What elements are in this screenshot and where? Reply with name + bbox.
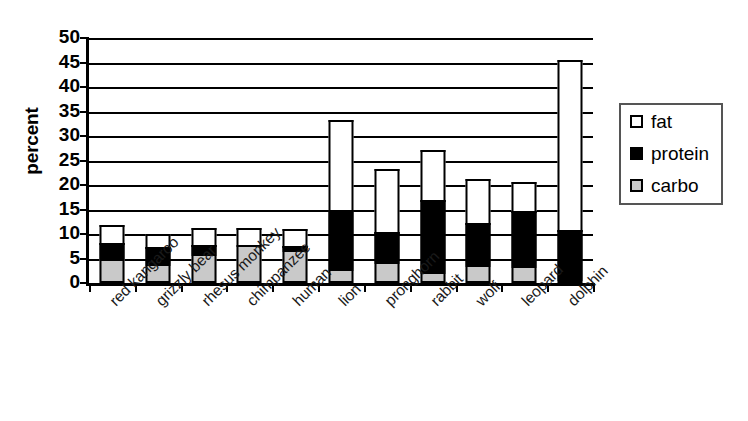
- bar-segment-protein[interactable]: [328, 210, 353, 272]
- x-axis-tick-mark: [89, 283, 91, 292]
- bar-group[interactable]: [364, 38, 410, 283]
- y-axis-tick-label: 15: [59, 198, 80, 220]
- bar-group[interactable]: [318, 38, 364, 283]
- bar-segment-protein[interactable]: [466, 223, 491, 267]
- bar-segment-fat[interactable]: [99, 225, 124, 245]
- bar-segment-carbo[interactable]: [374, 262, 399, 283]
- bar-segment-carbo[interactable]: [99, 259, 124, 283]
- y-axis-tick-mark: [80, 62, 89, 64]
- stacked-bar[interactable]: [558, 60, 583, 283]
- y-axis-tick-mark: [80, 160, 89, 162]
- bar-segment-fat[interactable]: [512, 182, 537, 213]
- legend-swatch-carbo-icon: [630, 179, 643, 192]
- stacked-bar[interactable]: [99, 225, 124, 283]
- y-axis-tick-mark: [80, 282, 89, 284]
- bar-segment-fat[interactable]: [558, 60, 583, 232]
- bar-group[interactable]: [547, 38, 593, 283]
- stacked-bar[interactable]: [466, 179, 491, 283]
- bar-group[interactable]: [410, 38, 456, 283]
- legend-item-fat[interactable]: fat: [630, 112, 709, 131]
- y-axis-tick-mark: [80, 184, 89, 186]
- y-axis-tick-label: 25: [59, 149, 80, 171]
- bar-segment-fat[interactable]: [420, 150, 445, 202]
- y-axis-tick-mark: [80, 111, 89, 113]
- y-axis-tick-label: 30: [59, 124, 80, 146]
- stacked-bar-chart: percent 50454035302520151050 red kangaro…: [0, 0, 748, 421]
- y-axis-tick-label: 0: [69, 271, 80, 293]
- y-axis-tick-label: 45: [59, 51, 80, 73]
- legend-label: carbo: [651, 176, 699, 195]
- y-axis-tick-label: 20: [59, 173, 80, 195]
- bar-group[interactable]: [89, 38, 135, 283]
- stacked-bar[interactable]: [512, 182, 537, 283]
- y-axis-tick-mark: [80, 37, 89, 39]
- bar-segment-fat[interactable]: [328, 120, 353, 211]
- legend-label: fat: [651, 112, 672, 131]
- legend-swatch-fat-icon: [630, 115, 643, 128]
- bar-segment-fat[interactable]: [374, 169, 399, 234]
- y-axis-tick-label: 35: [59, 100, 80, 122]
- bar-group[interactable]: [456, 38, 502, 283]
- bar-segment-protein[interactable]: [374, 232, 399, 264]
- y-axis-tick-mark: [80, 209, 89, 211]
- bar-segment-fat[interactable]: [466, 179, 491, 225]
- legend-label: protein: [651, 144, 709, 163]
- y-axis-tick-mark: [80, 86, 89, 88]
- y-axis-tick-label: 5: [69, 247, 80, 269]
- bar-group[interactable]: [501, 38, 547, 283]
- x-axis-tick-mark: [364, 283, 366, 292]
- y-axis-tick-mark: [80, 258, 89, 260]
- legend-item-protein[interactable]: protein: [630, 144, 709, 163]
- stacked-bar[interactable]: [328, 120, 353, 283]
- y-axis-tick-label: 40: [59, 75, 80, 97]
- legend-item-carbo[interactable]: carbo: [630, 176, 709, 195]
- stacked-bar[interactable]: [374, 169, 399, 283]
- chart-legend: fatproteincarbo: [619, 103, 723, 205]
- y-axis-tick-mark: [80, 135, 89, 137]
- y-axis-tick-mark: [80, 233, 89, 235]
- legend-swatch-protein-icon: [630, 147, 643, 160]
- bar-segment-protein[interactable]: [512, 211, 537, 269]
- y-axis-tick-label: 10: [59, 222, 80, 244]
- y-axis-title: percent: [21, 81, 43, 201]
- y-axis-tick-label: 50: [59, 26, 80, 48]
